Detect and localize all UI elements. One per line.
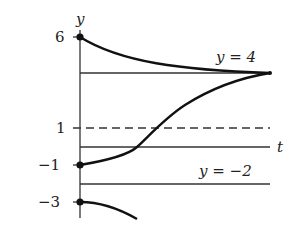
equilibrium-label-y4: y = 4 <box>215 48 256 66</box>
y-axis-label: y <box>75 10 85 28</box>
tick-label-1: 1 <box>56 119 66 137</box>
equilibrium-label-y-minus2: y = −2 <box>198 162 252 180</box>
solution-curve-from-minus1 <box>80 73 270 165</box>
convergence-point <box>268 71 272 75</box>
diagram: y t 6 1 −1 −3 y = 4 y = −2 <box>0 0 295 226</box>
tick-label-minus3: −3 <box>38 193 60 211</box>
t-axis-label: t <box>277 138 284 156</box>
phase-diagram-svg: y t 6 1 −1 −3 y = 4 y = −2 <box>0 0 295 226</box>
solution-curve-from-minus3 <box>80 202 137 219</box>
initial-point-minus3 <box>76 198 83 205</box>
tick-label-minus1: −1 <box>38 156 60 174</box>
tick-label-6: 6 <box>55 28 65 46</box>
initial-point-minus1 <box>76 161 83 168</box>
initial-point-6 <box>76 33 83 40</box>
